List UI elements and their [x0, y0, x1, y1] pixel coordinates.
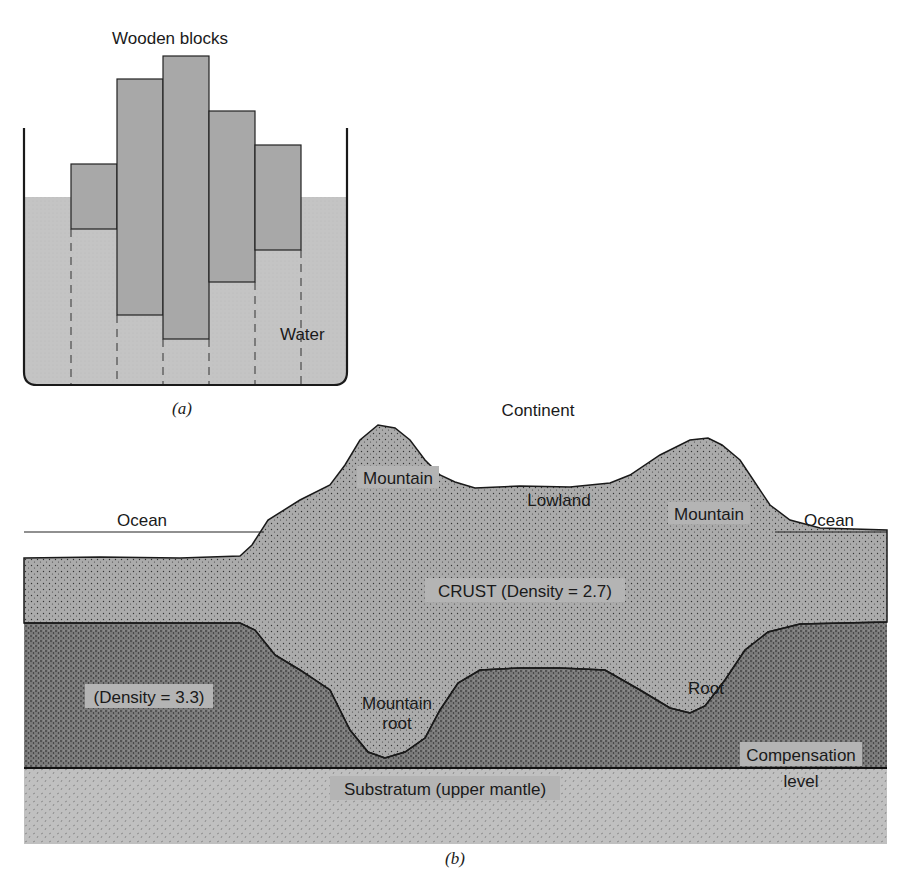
mountain-root-label-line2: root [382, 714, 412, 733]
wooden-block [255, 145, 301, 250]
root-label: Root [688, 679, 724, 698]
caption-a: (a) [172, 399, 192, 418]
crust-label: CRUST (Density = 2.7) [438, 582, 612, 601]
water-label: Water [280, 325, 325, 344]
mountain-left-label: Mountain [363, 469, 433, 488]
continent-label: Continent [502, 401, 575, 420]
substratum-label: Substratum (upper mantle) [344, 780, 546, 799]
wooden-blocks-label: Wooden blocks [112, 29, 228, 48]
wooden-block [117, 79, 163, 315]
ocean-left-label: Ocean [117, 511, 167, 530]
compensation-label-line2: level [784, 772, 819, 791]
isostasy-diagram: Wooden blocks Water (a) [0, 0, 915, 896]
panel-b: Continent Ocean Ocean Mountain Lowland M… [24, 401, 887, 868]
mountain-right-label: Mountain [674, 505, 744, 524]
wooden-block [209, 111, 255, 282]
mantle-density-label: (Density = 3.3) [93, 688, 204, 707]
lowland-label: Lowland [527, 491, 590, 510]
panel-a: Wooden blocks Water (a) [24, 29, 347, 418]
compensation-label-line1: Compensation [746, 746, 856, 765]
mountain-root-label-line1: Mountain [362, 694, 432, 713]
wooden-block [163, 56, 209, 339]
wooden-block [71, 164, 117, 229]
caption-b: (b) [445, 849, 465, 868]
ocean-right-label: Ocean [804, 511, 854, 530]
